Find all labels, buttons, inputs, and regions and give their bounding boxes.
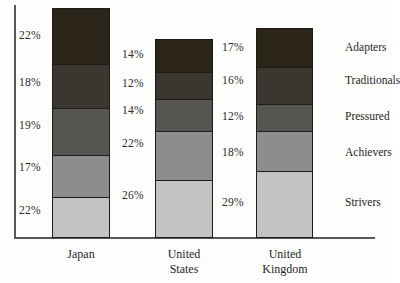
bar-united-states [155, 39, 213, 238]
bar-united-kingdom [256, 28, 313, 238]
legend-label-strivers: Strivers [345, 196, 381, 208]
value-label-united-kingdom-traditionals: 16% [222, 74, 244, 86]
value-label-japan-adapters: 22% [19, 29, 41, 41]
value-label-united-kingdom-achievers: 18% [222, 146, 244, 158]
value-label-united-states-strivers: 26% [122, 189, 144, 201]
value-label-united-kingdom-adapters: 17% [222, 41, 244, 53]
segment-united-states-traditionals [156, 72, 212, 99]
x-axis-label-united-kingdom: United Kingdom [249, 247, 321, 277]
legend-label-pressured: Pressured [345, 110, 390, 122]
value-label-united-states-achievers: 22% [122, 137, 144, 149]
segment-united-states-strivers [156, 180, 212, 237]
segment-japan-adapters [53, 9, 109, 64]
value-label-japan-traditionals: 18% [19, 76, 41, 88]
legend-label-achievers: Achievers [345, 146, 392, 158]
segment-united-states-achievers [156, 131, 212, 181]
segment-united-kingdom-traditionals [257, 67, 312, 103]
value-label-united-kingdom-strivers: 29% [222, 196, 244, 208]
legend-label-adapters: Adapters [345, 41, 387, 53]
bar-japan [52, 8, 110, 238]
legend-label-traditionals: Traditionals [345, 74, 400, 86]
segment-united-kingdom-adapters [257, 29, 312, 67]
value-label-japan-achievers: 17% [19, 161, 41, 173]
x-axis-label-united-states: United States [149, 247, 219, 277]
value-label-japan-pressured: 19% [19, 119, 41, 131]
segment-united-kingdom-achievers [257, 131, 312, 172]
value-label-united-kingdom-pressured: 12% [222, 110, 244, 122]
value-label-united-states-pressured: 14% [122, 104, 144, 116]
value-label-united-states-traditionals: 12% [122, 77, 144, 89]
value-label-united-states-adapters: 14% [122, 48, 144, 60]
value-label-japan-strivers: 22% [19, 204, 41, 216]
segment-united-states-pressured [156, 99, 212, 131]
x-axis-label-japan: Japan [46, 247, 116, 262]
segment-united-states-adapters [156, 40, 212, 72]
y-axis-line [14, 5, 16, 239]
segment-united-kingdom-strivers [257, 171, 312, 237]
segment-japan-strivers [53, 197, 109, 237]
segment-japan-pressured [53, 108, 109, 155]
segment-united-kingdom-pressured [257, 104, 312, 131]
segment-japan-achievers [53, 155, 109, 197]
segment-japan-traditionals [53, 64, 109, 109]
